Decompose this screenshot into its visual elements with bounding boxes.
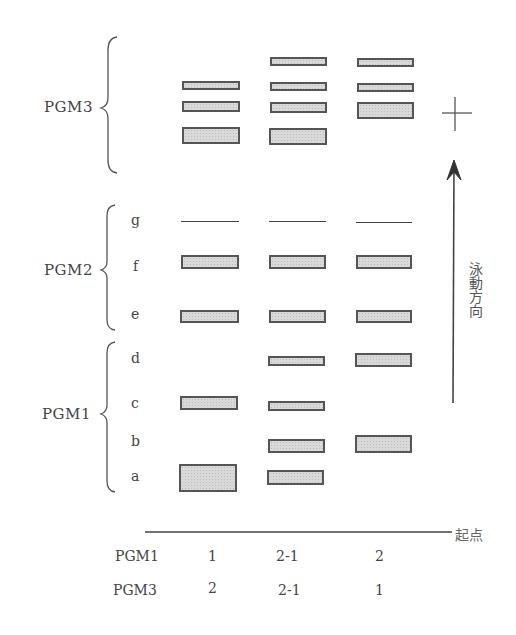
lane2-pgm3-top-band (270, 57, 327, 66)
lane2-pgm3-upper-band (270, 82, 327, 91)
lane3-pgm3-top-band (357, 58, 414, 67)
row-label-a: a (131, 468, 139, 484)
lane3-f-band (356, 255, 412, 269)
origin-label: 起点 (455, 524, 483, 544)
lane3-b-band (355, 435, 412, 453)
lane1-a-band (179, 464, 237, 492)
direction-arrow-shaft (453, 163, 454, 403)
lane2-f-band (269, 255, 326, 269)
lane1-pgm3-middle-band (182, 101, 240, 112)
lane3-pgm3-upper-band (357, 83, 414, 92)
phenotype-pgm3-lane1: 2 (208, 580, 217, 596)
lane2-a-band (267, 470, 324, 485)
lane1-c-band (180, 396, 238, 410)
lane1-pgm3-lower-band (182, 127, 240, 144)
lane1-e-band (180, 310, 239, 323)
lane2-pgm3-middle-band (270, 102, 327, 113)
lane2-d-band (268, 356, 325, 366)
lane1-pgm3-upper-band (182, 81, 240, 90)
phenotype-pgm3-lane3: 1 (375, 582, 384, 598)
row-label-e: e (131, 306, 139, 322)
row-label-c: c (131, 395, 139, 411)
direction-label: 泳動方向 (466, 262, 482, 318)
lane1-f-band (181, 255, 239, 269)
lane1-g-line (181, 221, 239, 222)
group-label-pgm3: PGM3 (44, 98, 93, 116)
row-label-f: f (133, 258, 138, 274)
lane2-g-line (269, 221, 326, 222)
lane3-pgm3-middle-band (357, 102, 414, 119)
pgm3-brace (101, 37, 117, 173)
row-label-d: d (131, 350, 140, 366)
phenotype-pgm1-lane2: 2-1 (276, 548, 299, 564)
row-label-g: g (131, 212, 140, 228)
lane2-c-band (268, 401, 325, 411)
lane3-d-band (355, 353, 412, 367)
brackets-and-arrows (0, 0, 516, 635)
phenotype-row-label-pgm3: PGM3 (113, 582, 157, 598)
pgm2-brace (101, 205, 115, 330)
phenotype-pgm3-lane2: 2-1 (278, 582, 301, 598)
direction-label-text: 泳動方向 (466, 262, 483, 318)
group-label-pgm2: PGM2 (44, 261, 93, 279)
lane2-e-band (269, 310, 326, 323)
lane3-g-line (356, 222, 412, 223)
phenotype-pgm1-lane1: 1 (208, 548, 217, 564)
lane2-b-band (268, 439, 325, 453)
phenotype-row-label-pgm1: PGM1 (115, 548, 159, 564)
pgm1-brace (101, 342, 115, 492)
lane3-e-band (356, 310, 412, 323)
group-label-pgm1: PGM1 (42, 405, 91, 423)
phenotype-pgm1-lane3: 2 (375, 548, 384, 564)
row-label-b: b (131, 433, 140, 449)
lane2-pgm3-lower-band (269, 128, 327, 145)
